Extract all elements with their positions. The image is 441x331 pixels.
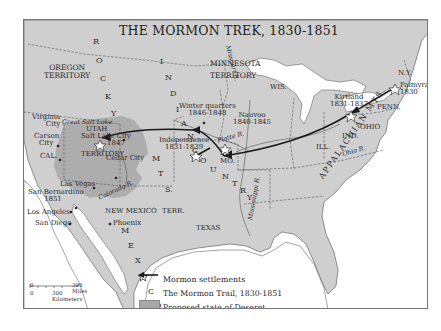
scale-km: 300 Kilometers: [52, 290, 82, 302]
label-line: 1840-1845: [233, 119, 271, 126]
label-mexico-m: M: [121, 227, 129, 235]
label-country-t: T: [232, 180, 237, 188]
label-line: TERRITORY: [44, 72, 90, 80]
map-frame: THE MORMON TREK, 1830-1851 OREGON TERRIT…: [23, 19, 428, 309]
label-line: 1831-1839: [159, 144, 209, 151]
map-title: THE MORMON TREK, 1830-1851: [119, 23, 339, 38]
label-line: City: [34, 140, 59, 147]
label-nauvoo: Nauvoo 1840-1845: [233, 112, 271, 126]
label-oregon-territory: OREGON TERRITORY: [44, 64, 90, 79]
label-line: 1831-1837: [330, 101, 368, 108]
label-country-o: O: [200, 157, 207, 165]
label-carson-city: Carson City: [34, 133, 59, 147]
label-indian-n2: N: [187, 133, 194, 141]
label-mts-s: S.: [165, 186, 173, 194]
label-winter-quarters: Winter quarters 1846-1848: [179, 103, 236, 117]
label-san-diego: San Diego: [35, 220, 71, 227]
legend-deseret-label: Proposed state of Deseret: [163, 303, 265, 310]
label-rocky-y: Y: [111, 110, 116, 118]
label-rocky-r: R: [93, 38, 99, 46]
label-line: City: [32, 121, 60, 128]
label-line: 1830: [400, 89, 428, 96]
label-cedar-city: Cedar City: [106, 155, 144, 162]
label-las-vegas: Las Vegas: [60, 181, 95, 188]
label-mo: MO.: [220, 158, 235, 165]
label-los-angeles: Los Angeles: [27, 209, 70, 216]
label-independence: Independence 1831-1839: [159, 137, 209, 151]
label-cal: CAL.: [40, 153, 57, 160]
label-indian-a: A: [181, 120, 187, 128]
legend-deseret: Proposed state of Deseret: [138, 300, 282, 309]
label-country-u: U: [210, 166, 217, 174]
legend: Mormon settlements The Mormon Trail, 183…: [138, 272, 282, 309]
label-great-salt-lake: Great Salt Lake: [62, 119, 112, 125]
label-rocky-c: C: [100, 75, 106, 83]
legend-trail-label: The Mormon Trail, 1830-1851: [163, 289, 282, 298]
label-line: 1847: [81, 140, 131, 147]
label-country-r: R: [240, 187, 246, 195]
label-texas: TEXAS: [196, 225, 220, 232]
legend-settlements-label: Mormon settlements: [163, 275, 245, 284]
label-palmyra: Palmyra 1830: [400, 82, 428, 96]
label-ny: N.Y.: [398, 70, 412, 77]
label-indian-n: N: [165, 74, 172, 82]
swatch-icon: [138, 300, 160, 309]
label-mexico-e: E: [128, 242, 134, 250]
label-indian-i2: I: [176, 106, 179, 114]
label-mts-m: M: [152, 155, 160, 163]
scale-km-zero: 0: [30, 290, 34, 296]
label-new-mexico: NEW MEXICO: [105, 208, 157, 215]
label-indian-d: D: [170, 90, 176, 98]
label-penn: PENN.: [377, 104, 401, 111]
label-ill: ILL.: [316, 144, 330, 151]
label-wis: WIS.: [270, 84, 287, 91]
label-kirtland: Kirtland 1831-1837: [330, 94, 368, 108]
label-indian-i: I: [160, 58, 163, 66]
label-line: 1846-1848: [179, 110, 236, 117]
label-country-y: Y: [247, 194, 252, 202]
legend-settlements: Mormon settlements: [138, 272, 282, 286]
label-mexico-x: X: [135, 257, 141, 265]
label-country-n: N: [222, 173, 229, 181]
legend-trail: The Mormon Trail, 1830-1851: [138, 286, 282, 300]
label-rocky-k: K: [105, 93, 111, 101]
scale-miles-zero: 0: [30, 282, 34, 288]
label-line: 1851: [28, 196, 84, 203]
label-virginia-city: Virginia City: [32, 114, 60, 128]
label-salt-lake-city: Salt Lake City 1847: [81, 133, 131, 147]
label-rocky-o: O: [96, 57, 103, 65]
label-terr: TERR.: [162, 208, 185, 215]
label-san-bernardino: San Bernardino 1851: [28, 189, 84, 203]
label-country-c: C: [192, 147, 198, 155]
label-mts-t: T: [158, 170, 163, 178]
